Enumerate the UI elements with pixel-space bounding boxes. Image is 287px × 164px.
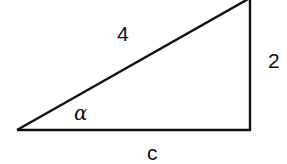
base-label: c [147,141,158,164]
hypotenuse-label: 4 [117,22,129,45]
triangle-diagram: 4 2 c α [0,0,287,164]
hypotenuse-line [17,0,250,130]
vertical-leg-label: 2 [268,49,280,72]
angle-alpha-label: α [74,101,88,125]
